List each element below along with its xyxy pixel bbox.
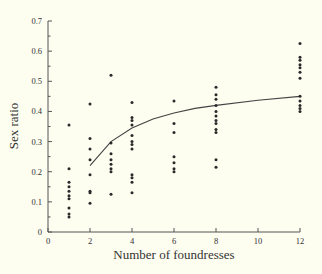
data-point <box>299 104 302 107</box>
data-point <box>89 102 92 105</box>
axes <box>48 21 300 232</box>
data-point <box>68 194 71 197</box>
data-point <box>173 99 176 102</box>
data-point <box>215 110 218 113</box>
data-point <box>110 142 113 145</box>
x-tick-labels: 024681012 <box>46 236 304 246</box>
y-tick-label: 0.1 <box>31 197 42 207</box>
predicted-curve <box>90 96 300 165</box>
data-point <box>299 42 302 45</box>
data-point <box>68 215 71 218</box>
x-tick-label: 2 <box>88 236 92 246</box>
data-point <box>299 63 302 66</box>
data-point <box>89 173 92 176</box>
y-axis-label: Sex ratio <box>6 103 21 150</box>
data-point <box>68 206 71 209</box>
data-point <box>299 107 302 110</box>
data-point <box>173 155 176 158</box>
data-point <box>131 191 134 194</box>
x-tick-label: 8 <box>214 236 218 246</box>
data-point <box>110 158 113 161</box>
data-point <box>68 185 71 188</box>
data-point <box>299 56 302 59</box>
data-point <box>299 110 302 113</box>
sex-ratio-chart: 00.10.20.30.40.50.60.7 024681012 Number … <box>0 0 322 274</box>
data-point <box>131 119 134 122</box>
data-point <box>89 137 92 140</box>
data-point <box>68 190 71 193</box>
x-tick-label: 12 <box>296 236 305 246</box>
data-point <box>68 181 71 184</box>
y-tick-label: 0 <box>38 227 42 237</box>
data-point <box>215 86 218 89</box>
data-points <box>68 42 302 218</box>
y-tick-label: 0.2 <box>31 167 42 177</box>
data-point <box>299 71 302 74</box>
x-tick-label: 10 <box>254 236 263 246</box>
data-point <box>215 114 218 117</box>
data-point <box>110 163 113 166</box>
data-point <box>89 191 92 194</box>
y-tick-labels: 00.10.20.30.40.50.60.7 <box>31 16 42 237</box>
data-point <box>110 170 113 173</box>
data-point <box>110 74 113 77</box>
data-point <box>215 158 218 161</box>
data-point <box>299 95 302 98</box>
data-point <box>131 134 134 137</box>
data-point <box>110 193 113 196</box>
data-point <box>89 158 92 161</box>
y-tick-label: 0.5 <box>31 76 42 86</box>
data-point <box>299 77 302 80</box>
y-tick-label: 0.3 <box>31 137 42 147</box>
data-point <box>110 167 113 170</box>
data-point <box>173 170 176 173</box>
data-point <box>68 197 71 200</box>
x-tick-label: 4 <box>130 236 135 246</box>
x-axis-label: Number of foundresses <box>113 247 234 262</box>
data-point <box>173 161 176 164</box>
data-point <box>215 119 218 122</box>
data-point <box>68 212 71 215</box>
data-point <box>131 148 134 151</box>
data-point <box>173 167 176 170</box>
data-point <box>173 131 176 134</box>
data-point <box>215 166 218 169</box>
data-point <box>89 202 92 205</box>
data-point <box>68 123 71 126</box>
data-point <box>215 93 218 96</box>
data-point <box>131 173 134 176</box>
data-point <box>299 99 302 102</box>
data-point <box>215 122 218 125</box>
data-point <box>215 104 218 107</box>
y-tick-label: 0.4 <box>31 106 42 116</box>
data-point <box>173 122 176 125</box>
data-point <box>131 123 134 126</box>
data-point <box>110 152 113 155</box>
y-tick-label: 0.6 <box>31 46 42 56</box>
data-point <box>68 167 71 170</box>
data-point <box>215 98 218 101</box>
data-point <box>215 128 218 131</box>
data-point <box>131 143 134 146</box>
data-point <box>131 101 134 104</box>
x-tick-label: 6 <box>172 236 176 246</box>
data-point <box>299 59 302 62</box>
data-point <box>299 66 302 69</box>
y-tick-label: 0.7 <box>31 16 42 26</box>
data-point <box>215 131 218 134</box>
data-point <box>131 140 134 143</box>
data-point <box>131 181 134 184</box>
data-point <box>131 176 134 179</box>
data-point <box>131 116 134 119</box>
x-tick-label: 0 <box>46 236 50 246</box>
data-point <box>89 148 92 151</box>
